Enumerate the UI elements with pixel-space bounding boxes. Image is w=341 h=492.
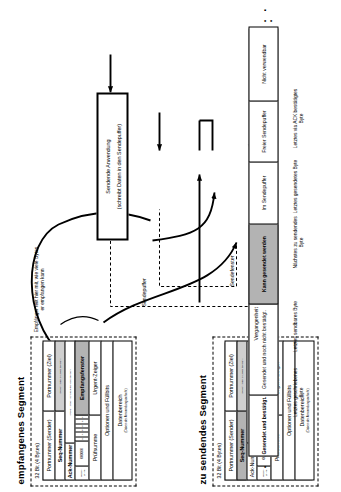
buffer-segment-in-buffer: Im Sendepuffer <box>248 161 278 224</box>
buffer-strip: Gesendet und bestätigt. Gesendet und noc… <box>248 28 278 456</box>
received-urgent-pointer: Urgent-Zeiger <box>88 340 101 415</box>
received-data-area: Datenbereich (Daten der Anwendungsschich… <box>112 340 132 480</box>
received-flag-bits: U A P R S F <box>74 414 89 441</box>
received-segment-width-caption: 32 Bit (4 Bytes) <box>33 443 39 478</box>
send-dst-port: Portnummer (Ziel) <box>224 340 237 411</box>
buffer-segment-unusable: Nicht verwendbar <box>248 26 278 101</box>
received-segment-title: empfangenes Segment <box>14 376 25 484</box>
received-data-title: Datenbereich <box>116 394 122 426</box>
tick-last-sent <box>199 120 212 150</box>
curve-window-edge <box>152 192 214 240</box>
received-data-sub: (Daten der Anwendungsschicht) <box>124 388 127 432</box>
received-flag-bit-f: F <box>75 415 88 418</box>
buffer-segment-acked: Gesendet und bestätigt. <box>248 394 278 456</box>
send-seq-label: Seq-Nummer <box>236 410 247 480</box>
buffer-segment-free: Freier Sendepuffer <box>248 100 278 162</box>
received-ack-desc: (Folgenummer nächstes erwartetes Segment… <box>64 340 75 443</box>
received-seq-desc: (Folgenummer aktuelles Segment) <box>54 340 65 411</box>
label-sendepuffer: Sendepuffer <box>140 278 146 306</box>
send-src-port: Portnummer (Sender) <box>224 410 237 480</box>
curve-window-top <box>31 212 150 353</box>
send-data-sub: (Daten der Anwendungsschicht) <box>306 388 309 432</box>
received-flag-bit-a: A <box>75 431 88 435</box>
buffer-ellipsis-end: · · · <box>262 0 273 22</box>
sending-application-sub: (schreibt Daten in den Sendepuffer) <box>115 123 121 208</box>
label-sendefenster: Sendefenster <box>228 255 234 286</box>
annot-last-sendable: Letztes sendbares Byte <box>292 300 298 352</box>
received-flag-bit-s: S <box>75 418 88 422</box>
dashed-sendefenster <box>159 209 236 286</box>
dashed-sendepuffer <box>110 192 251 306</box>
receiver-note: Empfänger teilt hier mit, wie viele Byte… <box>33 246 45 332</box>
received-flags-value: 000000 <box>74 440 89 466</box>
received-window-field: Empfangsfenster <box>74 340 89 415</box>
annot-last-sent: Letztes gesendetes Byte <box>292 158 298 214</box>
send-seq-desc: (Folgenummer aktuelles Segment) <box>236 340 247 411</box>
received-flag-bit-u: U <box>75 436 88 440</box>
annot-last-written: Letztes geschriebenes Byte <box>292 364 304 420</box>
buffer-segment-sendable: Kann gesendet werden <box>248 223 278 304</box>
label-vergangenheit: Vergangenheit <box>252 307 258 340</box>
received-src-port: Portnummer (Sender) <box>42 410 55 480</box>
received-offset-label: Header-Länge <box>74 465 89 480</box>
annot-last-acked: Letztes via ACK bestätigtes Byte <box>292 88 304 148</box>
send-segment-title: zu sendendes Segment <box>196 374 207 484</box>
received-flag-bit-r: R <box>75 423 88 427</box>
leader-receiver-note <box>60 316 98 324</box>
sending-application-title: Sendende Anwendung <box>104 139 110 193</box>
diagram-stage: empfangenes Segment 32 Bit (4 Bytes) Por… <box>0 0 341 492</box>
received-checksum: Prüfsumme <box>88 414 101 480</box>
annot-next-to-send: Nächstes zu sendendes Byte <box>292 214 304 270</box>
received-header-table: Portnummer (Sender) Portnummer (Ziel) Se… <box>42 342 130 480</box>
received-seq-label: Seq-Nummer <box>54 410 65 480</box>
curve-ack <box>103 242 236 322</box>
send-segment-width-caption: 32 Bit (4 Bytes) <box>215 443 221 478</box>
received-options: Optionen und Füllbits <box>100 340 113 480</box>
received-ack-label: Ack-Nummer <box>64 442 75 480</box>
sending-application-box: Sendende Anwendung (schreibt Daten in de… <box>96 92 128 240</box>
received-dst-port: Portnummer (Ziel) <box>42 340 55 411</box>
received-flag-bit-p: P <box>75 427 88 431</box>
